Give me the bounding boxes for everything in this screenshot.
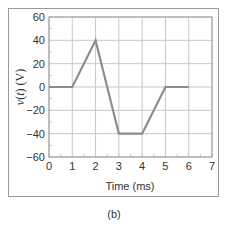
x-tick-label: 0	[46, 160, 52, 172]
y-tick-label: −20	[26, 104, 45, 116]
y-tick-labels: 6040200−20−40−60	[26, 11, 45, 163]
figure-caption: (b)	[0, 208, 228, 220]
x-tick-label: 2	[93, 160, 99, 172]
y-tick-label: 0	[39, 81, 45, 93]
x-tick-labels: 01234567	[46, 160, 215, 172]
x-tick-label: 5	[162, 160, 168, 172]
x-tick-label: 6	[186, 160, 192, 172]
y-tick-label: 60	[33, 11, 45, 23]
x-tick-label: 3	[116, 160, 122, 172]
x-tick-label: 1	[69, 160, 75, 172]
y-axis-label: v(t) (V)	[13, 69, 27, 105]
y-tick-label: −60	[26, 151, 45, 163]
line-chart: 6040200−20−40−60 01234567 Time (ms) v(t)…	[0, 0, 228, 227]
y-tick-label: 40	[33, 34, 45, 46]
x-axis-label: Time (ms)	[105, 180, 154, 192]
x-tick-label: 7	[209, 160, 215, 172]
y-tick-label: −40	[26, 128, 45, 140]
x-tick-label: 4	[139, 160, 145, 172]
y-tick-label: 20	[33, 58, 45, 70]
